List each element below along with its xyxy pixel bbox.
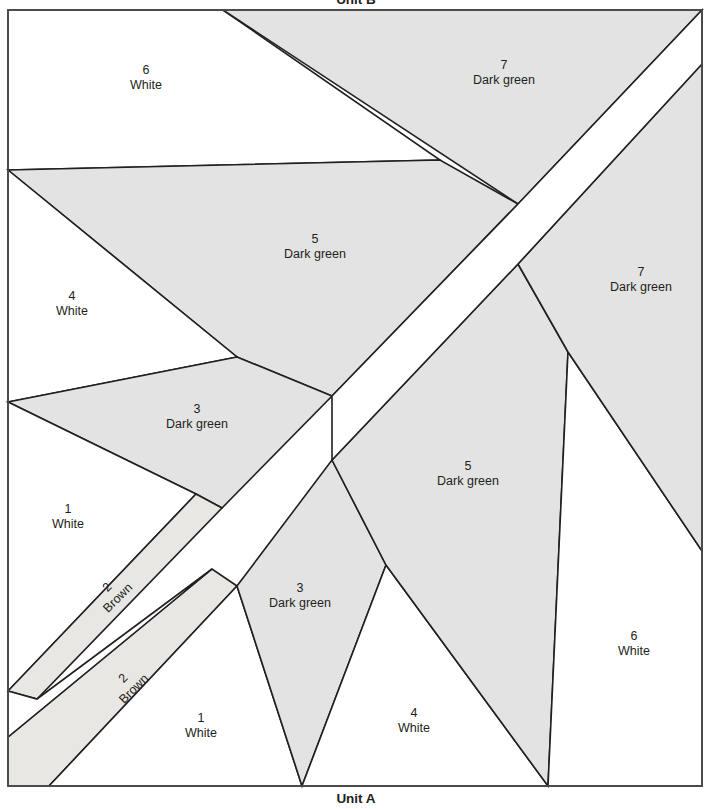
piece-number-b5: 5 xyxy=(312,232,319,246)
piece-fabric-b3: Dark green xyxy=(166,417,228,431)
piece-number-b7: 7 xyxy=(501,58,508,72)
piece-fabric-a1: White xyxy=(185,726,217,740)
piece-number-a4: 4 xyxy=(411,706,418,720)
piece-fabric-a7: Dark green xyxy=(610,280,672,294)
paper-piecing-diagram: 6White7Dark green5Dark green4White3Dark … xyxy=(0,0,713,809)
piece-fabric-a6: White xyxy=(618,644,650,658)
piece-fabric-b5: Dark green xyxy=(284,247,346,261)
piece-fabric-b4: White xyxy=(56,304,88,318)
piece-number-a5: 5 xyxy=(465,459,472,473)
piece-number-a3: 3 xyxy=(297,581,304,595)
piece-number-a7: 7 xyxy=(638,265,645,279)
piece-fabric-b6: White xyxy=(130,78,162,92)
piece-number-b4: 4 xyxy=(69,289,76,303)
piece-fabric-b7: Dark green xyxy=(473,73,535,87)
piece-number-a1: 1 xyxy=(198,711,205,725)
unit-a-title: Unit A xyxy=(336,791,375,806)
piece-fabric-a4: White xyxy=(398,721,430,735)
piece-fabric-a5: Dark green xyxy=(437,474,499,488)
piece-number-a6: 6 xyxy=(631,629,638,643)
piece-fabric-a3: Dark green xyxy=(269,596,331,610)
unit-b-title: Unit B xyxy=(336,0,376,7)
pattern-page: 6White7Dark green5Dark green4White3Dark … xyxy=(0,0,713,809)
piece-number-b6: 6 xyxy=(143,63,150,77)
piece-fabric-b1: White xyxy=(52,517,84,531)
piece-number-b3: 3 xyxy=(194,402,201,416)
piece-number-b1: 1 xyxy=(65,502,72,516)
